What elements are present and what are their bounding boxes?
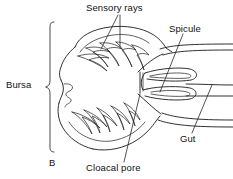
sensory-ray-upper-5 — [132, 45, 149, 70]
figure-container: Sensory rays Spicule Bursa Gut Cloacal p… — [0, 0, 233, 179]
bursa-lower-left-margin — [58, 103, 93, 149]
label-sensory-rays: Sensory rays — [86, 3, 143, 13]
spicule-upper-inner — [150, 73, 191, 78]
sensory-ray-lower-2 — [84, 110, 107, 133]
sensory-ray-lower-4 — [111, 106, 130, 130]
spicule-lower-inner — [151, 91, 190, 97]
sensory-ray-upper-3 — [100, 43, 122, 66]
bursa-upper-lobe-outline — [75, 26, 172, 52]
leader-sensory-rays-left — [101, 15, 118, 49]
bursa-left-crenulation — [64, 84, 73, 107]
bursa-mid-left-notch — [59, 80, 63, 103]
label-spicule: Spicule — [169, 24, 201, 34]
label-gut: Gut — [180, 134, 196, 144]
bursa-brace — [46, 22, 54, 152]
tail-dorsal-inner — [163, 50, 233, 55]
gut-upper-wall — [186, 84, 233, 85]
tail-dorsal-outline — [160, 44, 233, 49]
sensory-rays-upper-group — [78, 42, 149, 71]
spicule-converging-shaft — [141, 73, 147, 90]
sensory-ray-lower-5 — [124, 103, 140, 126]
label-cloacal-pore: Cloacal pore — [86, 163, 141, 173]
sensory-rays-lower-group — [72, 103, 140, 134]
bursa-upper-left-margin — [60, 47, 76, 80]
leader-gut — [192, 85, 212, 133]
label-bursa: Bursa — [6, 80, 31, 90]
spicule-lower-outer — [145, 87, 196, 100]
bursa-lower-inner-margin — [69, 122, 145, 141]
gut-tube-group — [186, 84, 233, 96]
bursa-upper-inner-margin — [80, 34, 149, 52]
brace-upper-arm — [46, 22, 54, 87]
leader-spicule — [160, 34, 183, 92]
tail-ventral-inner — [158, 120, 233, 127]
brace-lower-arm — [46, 87, 54, 152]
panel-label-b: B — [49, 158, 55, 168]
bursa-lower-lobe-outline — [93, 116, 160, 150]
tail-tube-group — [158, 44, 233, 127]
